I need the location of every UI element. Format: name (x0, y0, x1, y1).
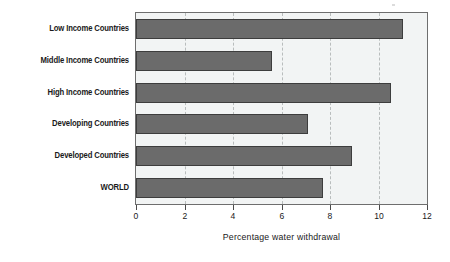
x-tick-8 (330, 205, 331, 210)
x-tick-label: 0 (117, 211, 155, 221)
gridline-6 (282, 13, 283, 204)
bar (136, 51, 272, 71)
x-tick-label: 10 (360, 211, 398, 221)
gridline-10 (379, 13, 380, 204)
category-label: High Income Countries (10, 87, 129, 97)
gridline-2 (185, 13, 186, 204)
x-tick-2 (185, 205, 186, 210)
x-tick-label: 6 (263, 211, 301, 221)
x-tick-label: 12 (408, 211, 446, 221)
x-tick-4 (233, 205, 234, 210)
gridline-8 (330, 13, 331, 204)
category-label: Developed Countries (10, 150, 129, 160)
category-label: Middle Income Countries (10, 55, 129, 65)
bar (136, 19, 403, 39)
category-label: Low Income Countries (10, 23, 129, 33)
bar (136, 146, 352, 166)
bar (136, 83, 391, 103)
scan-artifact-speck (392, 4, 395, 6)
x-axis-title: Percentage water withdrawal (139, 232, 423, 242)
x-tick-label: 2 (166, 211, 204, 221)
bar-chart: Low Income CountriesMiddle Income Countr… (0, 0, 450, 262)
category-axis-labels: Low Income CountriesMiddle Income Countr… (0, 12, 129, 205)
x-tick-6 (282, 205, 283, 210)
category-label: Developing Countries (10, 118, 129, 128)
x-tick-0 (136, 205, 137, 210)
x-tick-label: 4 (214, 211, 252, 221)
category-label: WORLD (10, 182, 129, 192)
x-tick-label: 8 (311, 211, 349, 221)
plot-area (135, 12, 428, 205)
bar (136, 178, 323, 198)
x-tick-10 (379, 205, 380, 210)
gridline-4 (233, 13, 234, 204)
x-tick-12 (427, 205, 428, 210)
bar (136, 114, 308, 134)
